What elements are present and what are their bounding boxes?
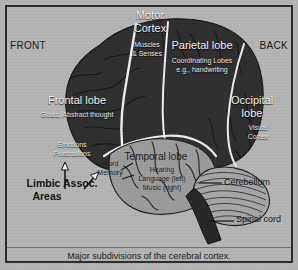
limbic-callout-line2: Areas: [32, 191, 61, 202]
figure-caption: Major subdivisions of the cerebral corte…: [7, 251, 291, 261]
spinal-cord-label: Spinal cord: [236, 215, 281, 225]
frontal-lobe-title: Frontal lobe: [48, 95, 106, 107]
temporal-lobe-sub-line3: Music (right): [143, 184, 182, 192]
caption-divider: [7, 247, 291, 248]
temporal-lobe-sub-line2: Language (left): [138, 175, 185, 183]
brain-diagram-figure: FRONT BACK Motor Cortex Muscles & Senses…: [0, 0, 298, 270]
cerebellum-label: Cerebellum: [224, 178, 270, 188]
occipital-lobe-title-line2: lobe: [242, 108, 263, 120]
limbic-inline-line2: Frustrations: [54, 150, 91, 158]
parietal-lobe-title: Parietal lobe: [171, 40, 232, 52]
occipital-lobe-sub-line1: Visual: [249, 124, 268, 132]
parietal-lobe-sub-line1: Coordinating Lobes: [172, 57, 233, 65]
occipital-lobe-title-line1: Occipital: [231, 95, 273, 107]
limbic-callout-line1: Limbic Assoc.: [27, 178, 98, 189]
orientation-back-label: BACK: [260, 41, 288, 52]
word-memory-line1: Word: [102, 160, 119, 168]
word-memory-line2: Memory: [97, 169, 122, 177]
limbic-inline-line1: Emotions: [57, 141, 86, 149]
motor-cortex-sub-line2: & Senses: [132, 50, 162, 58]
motor-cortex-sub-line1: Muscles: [134, 41, 160, 49]
temporal-lobe-sub-line1: Hearing: [150, 166, 175, 174]
occipital-lobe-sub-line2: Cortex: [248, 133, 269, 141]
frontal-lobe-sub-line1: Goals, Abstract thought: [41, 111, 114, 119]
orientation-front-label: FRONT: [10, 41, 46, 52]
motor-cortex-title-line2: Cortex: [134, 23, 166, 35]
parietal-lobe-sub-line2: e.g., handwriting: [176, 66, 227, 74]
motor-cortex-title-line1: Motor: [136, 10, 164, 22]
temporal-lobe-title: Temporal lobe: [125, 152, 188, 163]
